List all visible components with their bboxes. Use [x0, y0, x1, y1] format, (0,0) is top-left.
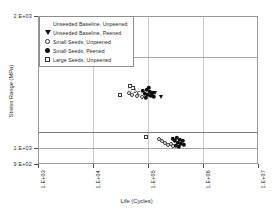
x-axis-tick-label: 1.E+04: [95, 170, 101, 188]
x-axis-label: Life (Cycles): [0, 198, 273, 204]
data-point-large-seeds-unpeened: [144, 135, 148, 139]
x-axis-tick-label: 1.E+03: [40, 170, 46, 188]
y-axis-tick: [34, 148, 38, 149]
legend-item-label: Large Seeds, Unpeened: [53, 57, 111, 63]
legend-item-label: Unseeded Baseline, Unpeened: [53, 21, 128, 27]
x-axis-tick: [258, 164, 259, 168]
triangle-down-filled-icon: [42, 30, 53, 35]
y-axis-tick-label: 9.E+02: [14, 161, 32, 167]
gridline-horizontal: [39, 148, 257, 149]
circle-open-icon: [42, 39, 53, 44]
y-axis-label: Stress Range (MPa): [8, 46, 14, 136]
y-axis-tick: [34, 164, 38, 165]
legend-item: Large Seeds, Unpeened: [42, 55, 131, 64]
x-axis-tick: [148, 164, 149, 168]
y-axis-tick-label: 1.E+03: [14, 145, 32, 151]
legend-item: Small Seeds, Unpeened: [42, 37, 131, 46]
legend-item-label: Small Seeds, Peened: [53, 48, 105, 54]
x-axis-tick-label: 1.E+07: [260, 170, 266, 188]
legend-item-label: Unseeded Baseline, Peened: [53, 30, 121, 36]
triangle-down-open-icon: [42, 21, 53, 26]
circle-filled-icon: [42, 48, 53, 53]
legend-item-label: Small Seeds, Unpeened: [53, 39, 111, 45]
data-point-large-seeds-unpeened: [118, 93, 122, 97]
data-point-small-seeds-peened: [182, 143, 186, 147]
x-axis-tick: [93, 164, 94, 168]
y-axis-tick-label: 2.E+03: [14, 13, 32, 19]
y-axis-tick: [34, 16, 38, 17]
x-axis-tick: [203, 164, 204, 168]
legend-item: Unseeded Baseline, Unpeened: [42, 19, 131, 28]
x-axis-tick: [38, 164, 39, 168]
chart-legend: Unseeded Baseline, Unpeened Unseeded Bas…: [39, 16, 134, 67]
data-point-unseeded-baseline-peened: [159, 95, 163, 99]
legend-item: Small Seeds, Peened: [42, 46, 131, 55]
square-open-icon: [42, 57, 53, 62]
legend-item: Unseeded Baseline, Peened: [42, 28, 131, 37]
gridline-vertical: [203, 17, 204, 163]
data-point-unseeded-baseline-peened: [153, 91, 157, 95]
gridline-horizontal: [39, 132, 257, 133]
chart-figure: Unseeded Baseline, Unpeened Unseeded Bas…: [0, 0, 273, 211]
x-axis-tick-label: 1.E+06: [205, 170, 211, 188]
x-axis-tick-label: 1.E+05: [150, 170, 156, 188]
